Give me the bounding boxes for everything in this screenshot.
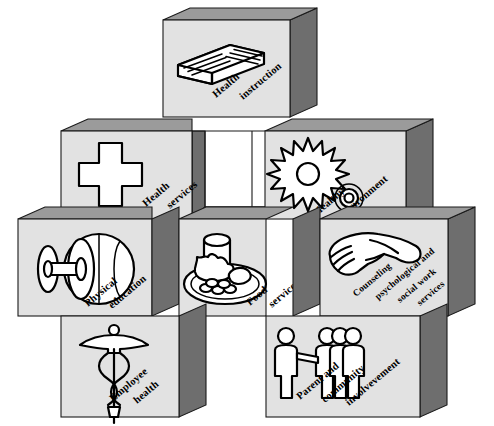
block-top-bevel (163, 8, 317, 20)
notch-opening (205, 131, 265, 219)
block-side-bevel (152, 207, 179, 316)
block-top-bevel (265, 119, 433, 131)
inner-notch (192, 131, 265, 219)
block-parent-and-community-involvement[interactable]: Parent and community involvevement (266, 304, 447, 417)
diagram-canvas: Health instruction Health services (0, 0, 494, 426)
block-food-services[interactable]: Food services (152, 207, 301, 316)
block-health-instruction[interactable]: Health instruction (163, 8, 317, 117)
block-top-bevel (61, 119, 192, 131)
block-side-bevel (290, 8, 317, 117)
block-right-side-bevel (448, 207, 475, 316)
notch-left-wall (192, 131, 205, 219)
block-employee-health[interactable]: Employee health (61, 304, 206, 423)
block-top-bevel (320, 207, 475, 219)
block-counseling-psychological-social-work-services[interactable]: Counseling psychological and social work… (293, 207, 475, 316)
school-health-block-diagram: Health instruction Health services (0, 0, 494, 426)
block-health-services[interactable]: Health services (61, 119, 199, 219)
block-side-bevel (179, 304, 206, 417)
block-front-face (61, 316, 179, 417)
block-top-bevel (18, 207, 152, 219)
block-side-bevel (406, 119, 433, 219)
block-side-bevel (293, 207, 320, 316)
block-side-bevel (420, 304, 447, 417)
block-physical-education[interactable]: Physical education (18, 207, 152, 316)
